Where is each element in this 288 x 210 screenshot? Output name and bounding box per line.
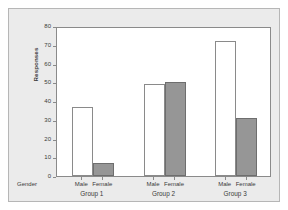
x-axis-tick-mark — [174, 177, 175, 180]
x-axis-group-label: Group 3 — [195, 190, 275, 197]
x-axis-tick-mark — [246, 177, 247, 180]
bar-group-2-male — [144, 84, 165, 176]
y-axis-tick-label: 70 — [29, 42, 51, 48]
y-axis-tick-label: 60 — [29, 61, 51, 67]
x-axis-tick-mark — [153, 177, 154, 180]
x-axis-group-label: Group 2 — [124, 190, 204, 197]
y-axis-tick-label: 50 — [29, 79, 51, 85]
x-axis-group-label: Group 1 — [52, 190, 132, 197]
bar-group-1-female — [93, 163, 114, 176]
bar-group-1-male — [72, 107, 93, 176]
x-axis-category-label: Female — [82, 181, 122, 187]
bar-group-3-female — [236, 118, 257, 176]
y-axis-tick-label: 10 — [29, 154, 51, 160]
y-axis-tick-label: 30 — [29, 117, 51, 123]
x-axis-tick-mark — [102, 177, 103, 180]
x-axis-tick-mark — [225, 177, 226, 180]
y-axis-tick-label: 20 — [29, 136, 51, 142]
y-axis-tick-mark — [53, 177, 56, 178]
plot-area — [56, 27, 271, 177]
x-axis-category-label: Female — [226, 181, 266, 187]
chart-screenshot: Responses 01020304050607080 Gender MaleF… — [0, 0, 288, 210]
y-axis-tick-label: 40 — [29, 98, 51, 104]
x-axis-row-title: Gender — [17, 181, 57, 187]
chart-panel: Responses 01020304050607080 Gender MaleF… — [8, 8, 280, 202]
y-axis-tick-label: 0 — [29, 173, 51, 179]
bar-group-2-female — [165, 82, 186, 176]
bar-group-3-male — [215, 41, 236, 176]
y-axis-tick-label: 80 — [29, 23, 51, 29]
x-axis-category-label: Female — [154, 181, 194, 187]
x-axis-tick-mark — [81, 177, 82, 180]
